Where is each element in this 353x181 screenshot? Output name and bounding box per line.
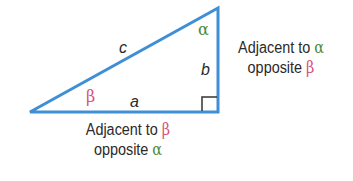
right-triangle: [30, 8, 218, 112]
side-a-label: a: [130, 93, 139, 111]
side-b-label: b: [201, 61, 210, 79]
angle-beta-label: β: [86, 88, 95, 106]
right-angle-marker: [202, 97, 217, 111]
beta-symbol: β: [306, 58, 314, 77]
side-c-label: c: [119, 39, 127, 57]
caption-side-a-line1: Adjacent to β: [72, 120, 184, 140]
caption-side-b: Adjacent to α opposite β: [228, 38, 334, 78]
angle-alpha-label: α: [198, 21, 209, 39]
caption-side-a-line2: opposite α: [72, 140, 184, 160]
caption-side-b-line1: Adjacent to α: [228, 38, 334, 58]
alpha-symbol: α: [314, 38, 324, 57]
caption-side-b-line2: opposite β: [228, 58, 334, 78]
beta-symbol: β: [162, 120, 170, 139]
caption-side-a: Adjacent to β opposite α: [72, 120, 184, 160]
alpha-symbol: α: [152, 140, 162, 159]
